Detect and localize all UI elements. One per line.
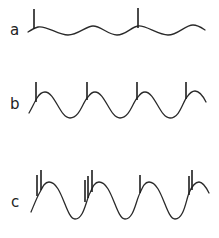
waveform-canvas bbox=[0, 0, 219, 238]
spikes-c bbox=[37, 170, 192, 202]
wave-c bbox=[31, 182, 209, 219]
waveform-figure: a b c bbox=[0, 0, 219, 238]
trace-c bbox=[31, 170, 209, 219]
wave-b bbox=[29, 91, 206, 118]
trace-a bbox=[28, 8, 205, 35]
spikes-a bbox=[34, 8, 138, 29]
trace-b bbox=[29, 82, 206, 118]
wave-a bbox=[28, 25, 205, 35]
spikes-b bbox=[36, 82, 186, 102]
